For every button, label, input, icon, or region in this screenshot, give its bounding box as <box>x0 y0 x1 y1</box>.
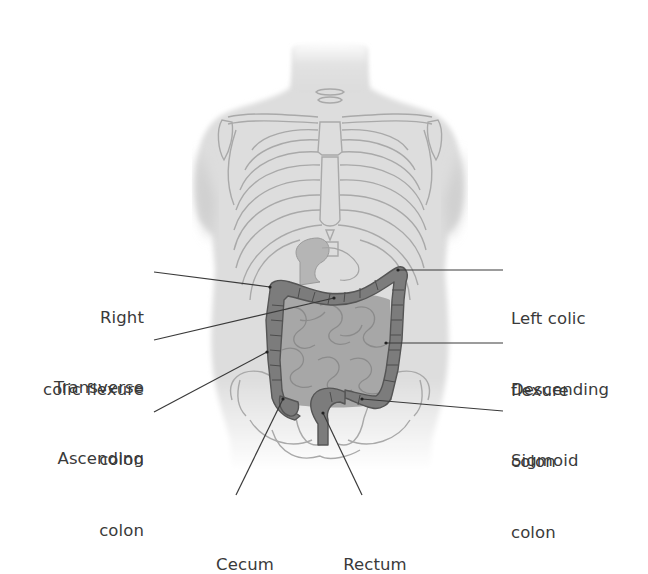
label-left-colic-flexure-line1: Left colic <box>511 307 586 331</box>
label-ascending-colon-line2: colon <box>58 519 144 543</box>
label-sigmoid-colon: Sigmoid colon <box>511 401 578 569</box>
label-transverse-colon-line1: Transverse <box>54 376 144 400</box>
label-ascending-colon: Ascending colon <box>58 399 144 567</box>
label-right-colic-flexure-line1: Right <box>43 306 144 330</box>
label-cecum-text: Cecum <box>205 553 285 574</box>
label-descending-colon-line1: Descending <box>511 378 609 402</box>
label-rectum-text: Rectum <box>330 553 420 574</box>
label-cecum: Cecum <box>205 505 285 574</box>
label-sigmoid-colon-line2: colon <box>511 521 578 545</box>
label-ascending-colon-line1: Ascending <box>58 447 144 471</box>
label-rectum: Rectum <box>330 505 420 574</box>
label-sigmoid-colon-line1: Sigmoid <box>511 449 578 473</box>
